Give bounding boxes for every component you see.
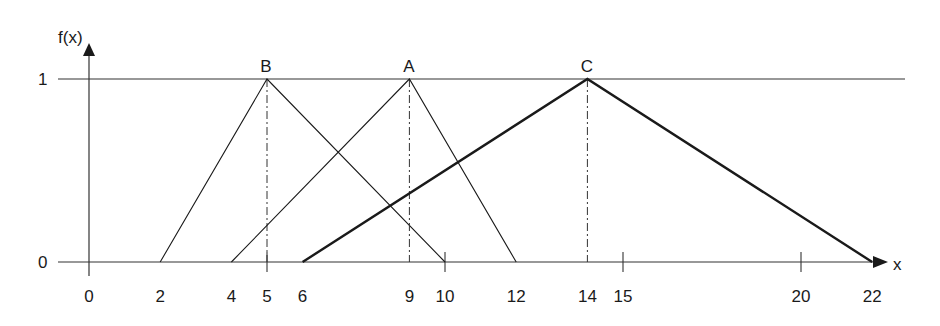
membership-a bbox=[231, 79, 516, 262]
fuzzy-membership-chart: 024569101214152022 f(x) x 1 0 B A C bbox=[0, 0, 940, 326]
axes bbox=[58, 43, 905, 276]
x-tick-label: 10 bbox=[436, 287, 455, 306]
x-axis-arrow-icon bbox=[873, 256, 888, 268]
peak-label-a: A bbox=[403, 57, 415, 76]
x-tick-label: 22 bbox=[863, 287, 882, 306]
x-tick-label: 12 bbox=[507, 287, 526, 306]
x-tick-label: 15 bbox=[614, 287, 633, 306]
x-tick-label: 4 bbox=[227, 287, 236, 306]
x-tick-label: 5 bbox=[262, 287, 271, 306]
x-tick-label: 9 bbox=[405, 287, 414, 306]
peak-label-b: B bbox=[260, 57, 271, 76]
y-tick-label-0: 0 bbox=[38, 253, 47, 272]
y-tick-label-1: 1 bbox=[38, 70, 47, 89]
x-tick-label: 0 bbox=[84, 287, 93, 306]
x-tick-label: 20 bbox=[792, 287, 811, 306]
plot-area: 024569101214152022 bbox=[84, 79, 881, 306]
x-tick-label: 2 bbox=[155, 287, 164, 306]
labels: f(x) x 1 0 B A C bbox=[38, 28, 902, 274]
y-axis-arrow-icon bbox=[83, 43, 95, 56]
membership-b bbox=[160, 79, 445, 262]
x-tick-label: 6 bbox=[298, 287, 307, 306]
x-axis-label: x bbox=[893, 255, 902, 274]
x-tick-label: 14 bbox=[578, 287, 597, 306]
peak-label-c: C bbox=[581, 57, 593, 76]
y-axis-label: f(x) bbox=[58, 28, 83, 47]
